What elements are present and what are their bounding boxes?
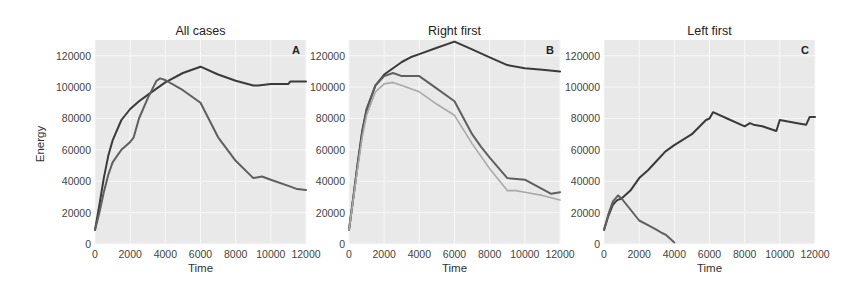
x-tick-label: 10000 (256, 248, 285, 260)
panel-title: Left first (687, 24, 732, 38)
y-tick-label: 0 (594, 238, 600, 250)
x-axis-label: Time (188, 262, 213, 274)
x-tick-label: 8000 (478, 248, 502, 260)
x-tick-label: 4000 (154, 248, 178, 260)
x-tick-label: 6000 (189, 248, 213, 260)
x-tick-label: 2000 (118, 248, 142, 260)
x-tick-label: 6000 (698, 248, 722, 260)
y-tick-label: 100000 (56, 81, 91, 93)
panel-title: All cases (175, 24, 225, 38)
y-tick-label: 60000 (316, 144, 345, 156)
x-tick-label: 6000 (443, 248, 467, 260)
x-tick-label: 2000 (372, 248, 396, 260)
x-tick-label: 0 (92, 248, 98, 260)
panel-c: 0200004000060000800001000001200000200040… (565, 24, 830, 274)
x-axis-label: Time (697, 262, 722, 274)
panel-title: Right first (428, 24, 481, 38)
panel-label: B (546, 44, 554, 56)
x-tick-label: 12000 (291, 248, 320, 260)
y-tick-label: 120000 (56, 50, 91, 62)
y-tick-label: 80000 (571, 112, 600, 124)
y-tick-label: 20000 (571, 207, 600, 219)
x-tick-label: 12000 (800, 248, 829, 260)
y-tick-label: 100000 (565, 81, 600, 93)
y-tick-label: 60000 (571, 144, 600, 156)
x-tick-label: 10000 (765, 248, 794, 260)
x-tick-label: 0 (601, 248, 607, 260)
panel-a: 0200004000060000800001000001200000200040… (56, 24, 321, 274)
panel-label: A (292, 44, 300, 56)
y-tick-label: 80000 (62, 112, 91, 124)
y-tick-label: 40000 (571, 175, 600, 187)
y-tick-label: 0 (339, 238, 345, 250)
y-tick-label: 40000 (62, 175, 91, 187)
x-tick-label: 10000 (510, 248, 539, 260)
y-tick-label: 120000 (565, 50, 600, 62)
y-axis-label: Energy (34, 124, 46, 164)
x-tick-label: 8000 (733, 248, 757, 260)
y-tick-label: 100000 (310, 81, 345, 93)
y-tick-label: 120000 (310, 50, 345, 62)
chart-canvas: 0200004000060000800001000001200000200040… (0, 0, 867, 290)
x-tick-label: 12000 (545, 248, 574, 260)
y-tick-label: 40000 (316, 175, 345, 187)
x-tick-label: 4000 (663, 248, 687, 260)
y-tick-label: 60000 (62, 144, 91, 156)
x-axis-label: Time (442, 262, 467, 274)
y-tick-label: 80000 (316, 112, 345, 124)
panel-label: C (801, 44, 809, 56)
x-tick-label: 4000 (408, 248, 432, 260)
x-tick-label: 0 (346, 248, 352, 260)
x-tick-label: 2000 (627, 248, 651, 260)
y-tick-label: 20000 (62, 207, 91, 219)
y-tick-label: 20000 (316, 207, 345, 219)
panel-b: 0200004000060000800001000001200000200040… (310, 24, 575, 274)
x-tick-label: 8000 (224, 248, 248, 260)
figure: 0200004000060000800001000001200000200040… (0, 0, 867, 290)
y-tick-label: 0 (85, 238, 91, 250)
